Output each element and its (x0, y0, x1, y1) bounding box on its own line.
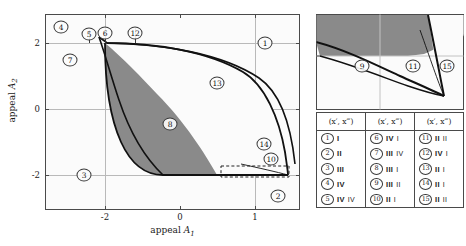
legend-value-primary: IV (386, 134, 394, 143)
yticklabel-neg2: -2 (20, 170, 40, 180)
xtick-0 (180, 206, 181, 210)
main-plot: 1 2 3 4 5 6 7 8 12 13 14 10 (45, 14, 300, 210)
legend-value-secondary: II (396, 181, 401, 188)
inset-white-wedge (428, 15, 464, 90)
region-label-8: 8 (163, 118, 178, 131)
legend-row: 4 IV (317, 177, 365, 192)
legend-badge: 3 (321, 163, 334, 175)
legend-badge: 11 (419, 133, 432, 145)
legend-value-primary: II (337, 149, 342, 158)
legend-badge: 15 (419, 194, 432, 206)
legend-value-primary: III (337, 165, 344, 174)
legend-row: 13 II I (415, 161, 463, 176)
legend-row: 3 III (317, 161, 365, 176)
xtick-top-neg2 (105, 14, 106, 18)
region-label-2: 2 (271, 190, 286, 203)
legend-row: 11 II II (415, 131, 463, 146)
legend-badge: 4 (321, 178, 334, 190)
legend-value-primary: I (337, 134, 339, 143)
legend-value-secondary: I (443, 181, 445, 188)
region-label-10: 10 (264, 153, 279, 166)
ytick-right-2 (296, 43, 300, 44)
legend-column-2: (x′, x‴) 6 IV I 7 III IV 8 III I 9 III I… (365, 113, 414, 207)
legend-badge: 1 (321, 133, 334, 145)
legend-row: 6 IV I (366, 131, 414, 146)
inset-plot: 9 11 15 (316, 14, 464, 110)
region-label-1: 1 (258, 37, 273, 50)
legend-header-2: (x′, x‴) (366, 113, 414, 131)
legend-value-secondary: I (394, 196, 396, 203)
region-label-12: 12 (128, 27, 143, 40)
legend-value-primary: II (435, 134, 440, 143)
ytick-right-0 (296, 109, 300, 110)
legend-badge: 8 (370, 163, 383, 175)
inset-curve-lower (320, 56, 444, 96)
xticklabel-0: 0 (177, 212, 182, 222)
region-label-3: 3 (77, 169, 92, 182)
legend-value-primary: IV (435, 149, 443, 158)
legend-row: 1 I (317, 131, 365, 146)
legend-value-primary: II (386, 195, 391, 204)
legend-row: 14 II I (415, 177, 463, 192)
legend-value-secondary: I (397, 135, 399, 142)
ytick-0 (45, 109, 49, 110)
legend-column-1: (x′, x‴) 1 I 2 II 3 III 4 IV (317, 113, 365, 207)
legend-badge: 6 (370, 133, 383, 145)
legend-badge: 13 (419, 163, 432, 175)
region-label-4: 4 (54, 21, 69, 34)
legend-value-secondary: IV (348, 196, 355, 203)
legend-table: (x′, x‴) 1 I 2 II 3 III 4 IV (316, 112, 464, 208)
xtick-neg2 (105, 206, 106, 210)
legend-value-secondary: II (443, 196, 448, 203)
legend-column-3: (x′, x‴) 11 II II 12 IV I 13 II I 14 II … (414, 113, 463, 207)
legend-row: 8 III I (366, 161, 414, 176)
region-label-13: 13 (210, 77, 225, 90)
legend-row: 7 III IV (366, 146, 414, 161)
xtick-1 (255, 206, 256, 210)
legend-header-3: (x′, x‴) (415, 113, 463, 131)
legend-row: 9 III II (366, 177, 414, 192)
legend-value-secondary: I (396, 166, 398, 173)
yticklabel-2: 2 (24, 38, 40, 48)
region-label-5: 5 (82, 28, 97, 41)
legend-badge: 10 (370, 194, 383, 206)
legend-value-primary: III (386, 180, 393, 189)
region-label-6: 6 (98, 27, 113, 40)
legend-badge: 9 (370, 178, 383, 190)
legend-value-secondary: I (446, 150, 448, 157)
legend-badge: 7 (370, 148, 383, 160)
region-label-14: 14 (257, 138, 272, 151)
legend-badge: 14 (419, 178, 432, 190)
legend-value-secondary: I (443, 166, 445, 173)
ytick-right-neg2 (296, 175, 300, 176)
legend-value-primary: III (386, 149, 393, 158)
inset-label-11: 11 (406, 60, 421, 73)
legend-value-primary: III (386, 165, 393, 174)
y-axis-title: appeal A2 (7, 65, 20, 135)
legend-header-1: (x′, x‴) (317, 113, 365, 131)
legend-value-primary: IV (337, 180, 345, 189)
legend-row: 10 II I (366, 192, 414, 207)
inset-label-15: 15 (440, 60, 455, 73)
legend-row: 2 II (317, 146, 365, 161)
inset-label-9: 9 (355, 60, 370, 73)
figure-canvas: 1 2 3 4 5 6 7 8 12 13 14 10 appeal A1 ap… (0, 0, 466, 246)
legend-value-secondary: IV (396, 150, 403, 157)
legend-value-secondary: II (443, 135, 448, 142)
legend-badge: 5 (321, 194, 334, 206)
legend-row: 15 II II (415, 192, 463, 207)
legend-value-primary: IV (337, 195, 345, 204)
legend-badge: 12 (419, 148, 432, 160)
legend-value-primary: II (435, 195, 440, 204)
legend-row: 5 IV IV (317, 192, 365, 207)
xtick-top-0 (180, 14, 181, 18)
legend-row: 12 IV I (415, 146, 463, 161)
x-axis-title: appeal A1 (45, 225, 300, 238)
ytick-neg2 (45, 175, 49, 176)
legend-value-primary: II (435, 180, 440, 189)
xticklabel-neg2: -2 (101, 212, 109, 222)
xticklabel-1: 1 (252, 212, 257, 222)
legend-value-primary: II (435, 165, 440, 174)
region-label-7: 7 (63, 54, 78, 67)
legend-badge: 2 (321, 148, 334, 160)
